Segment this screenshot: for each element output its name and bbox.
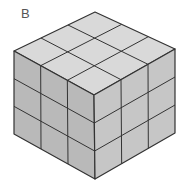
cube-diagram [0,0,184,186]
